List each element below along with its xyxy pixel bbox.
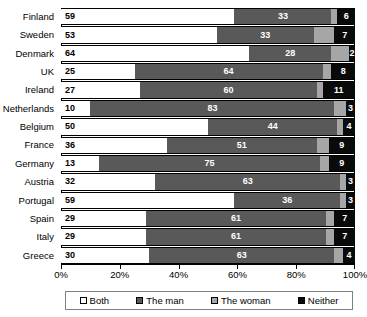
bar-row: 36519	[61, 137, 355, 154]
bar-segment-man: 63	[149, 248, 334, 263]
bar-segment-value: 13	[65, 159, 75, 168]
bar-segment-value: 27	[65, 86, 75, 95]
bar-segment-man: 33	[217, 27, 314, 42]
bar-segment-both: 10	[61, 101, 90, 116]
bar-segment-woman	[326, 211, 335, 226]
y-axis-label: Italy	[0, 228, 58, 245]
bar-row: 29617	[61, 210, 355, 227]
bar-row: 29617	[61, 228, 355, 245]
bar-segment-neither: 2	[349, 46, 355, 61]
bar-segment-man: 33	[234, 9, 331, 24]
bar-segment-both: 59	[61, 193, 234, 208]
bar-segment-value: 33	[278, 12, 288, 21]
bar-segment-both: 25	[61, 64, 135, 79]
bar-segment-man: 44	[208, 119, 337, 134]
bar-segment-woman	[334, 101, 346, 116]
bar-row: 276011	[61, 81, 355, 98]
bar-segment-man: 51	[167, 138, 317, 153]
legend-label: The man	[146, 296, 184, 306]
bar-segment-both: 32	[61, 174, 155, 189]
bar-row: 32633	[61, 173, 355, 190]
bar-row: 53337	[61, 26, 355, 43]
x-axis-tick-label: 20%	[110, 270, 129, 280]
bar-segment-woman	[331, 46, 349, 61]
bar-segment-value: 6	[344, 12, 349, 21]
bar-segment-value: 4	[347, 251, 352, 260]
bar-segment-value: 25	[65, 67, 75, 76]
bar-segment-value: 64	[224, 67, 234, 76]
bar-segment-both: 64	[61, 46, 249, 61]
bar-segment-value: 61	[231, 214, 241, 223]
bar-segment-neither: 11	[323, 82, 355, 97]
bar-segment-woman	[317, 138, 329, 153]
legend-item-woman[interactable]: The woman	[211, 296, 271, 306]
x-axis-tick-label: 100%	[343, 270, 367, 280]
bar-segment-both: 29	[61, 229, 146, 244]
legend-item-neither[interactable]: Neither	[298, 296, 339, 306]
bar-segment-value: 7	[342, 31, 347, 40]
legend-label: Neither	[308, 296, 339, 306]
bar-segment-neither: 7	[334, 211, 355, 226]
bar-row: 50444	[61, 118, 355, 135]
bar-segment-value: 36	[65, 141, 75, 150]
bar-segment-value: 32	[65, 177, 75, 186]
bar-segment-both: 53	[61, 27, 217, 42]
x-axis-tick-label: 60%	[228, 270, 247, 280]
bar-segment-woman	[314, 27, 335, 42]
bar-segment-value: 53	[65, 31, 75, 40]
bar-segment-neither: 9	[329, 138, 355, 153]
y-axis-label: Netherlands	[0, 100, 58, 117]
bar-segment-value: 75	[204, 159, 214, 168]
bar-row: 59336	[61, 8, 355, 25]
bar-segment-value: 2	[350, 49, 355, 58]
bar-segment-value: 4	[347, 122, 352, 131]
bar-segment-man: 83	[90, 101, 334, 116]
y-axis-category-labels: FinlandSwedenDenmarkUKIrelandNetherlands…	[0, 8, 58, 264]
bar-segment-both: 36	[61, 138, 167, 153]
bar-segment-value: 8	[341, 67, 346, 76]
y-axis-label: Finland	[0, 8, 58, 25]
bar-segment-neither: 9	[329, 156, 355, 171]
bar-segment-man: 61	[146, 229, 325, 244]
legend-label: The woman	[221, 296, 271, 306]
bar-segment-value: 10	[65, 104, 75, 113]
chart-legend: BothThe manThe womanNeither	[65, 291, 353, 310]
bar-segment-man: 36	[234, 193, 340, 208]
bar-segment-woman	[334, 248, 343, 263]
y-axis-label: UK	[0, 63, 58, 80]
bar-segment-value: 9	[339, 159, 344, 168]
y-axis-label: Austria	[0, 173, 58, 190]
bar-rows-container: 5933653337642822564827601110833504443651…	[61, 8, 355, 264]
bar-segment-man: 28	[249, 46, 331, 61]
bar-segment-value: 51	[237, 141, 247, 150]
y-axis-label: Germany	[0, 155, 58, 172]
legend-swatch-both-icon	[80, 297, 87, 304]
y-axis-label: Sweden	[0, 26, 58, 43]
bar-row: 10833	[61, 100, 355, 117]
bar-segment-woman	[320, 156, 329, 171]
x-axis-tick-label: 80%	[287, 270, 306, 280]
bar-segment-value: 60	[224, 86, 234, 95]
x-axis-tick-label: 40%	[169, 270, 188, 280]
bar-segment-value: 28	[285, 49, 295, 58]
bar-segment-value: 11	[334, 86, 344, 95]
x-axis-tick-label: 0%	[54, 270, 68, 280]
bar-row: 13759	[61, 155, 355, 172]
bar-segment-neither: 8	[331, 64, 355, 79]
bar-segment-neither: 7	[334, 27, 355, 42]
bar-segment-man: 60	[140, 82, 316, 97]
legend-item-both[interactable]: Both	[80, 296, 110, 306]
bar-segment-value: 50	[65, 122, 75, 131]
bar-segment-value: 33	[260, 31, 270, 40]
bar-segment-both: 50	[61, 119, 208, 134]
bar-segment-value: 30	[65, 251, 75, 260]
bar-segment-man: 75	[99, 156, 320, 171]
bar-row: 30634	[61, 247, 355, 264]
bar-segment-woman	[326, 229, 335, 244]
bar-segment-neither: 3	[346, 101, 355, 116]
bar-row: 59363	[61, 192, 355, 209]
legend-item-man[interactable]: The man	[136, 296, 184, 306]
y-axis-label: Portugal	[0, 192, 58, 209]
bar-segment-value: 64	[65, 49, 75, 58]
